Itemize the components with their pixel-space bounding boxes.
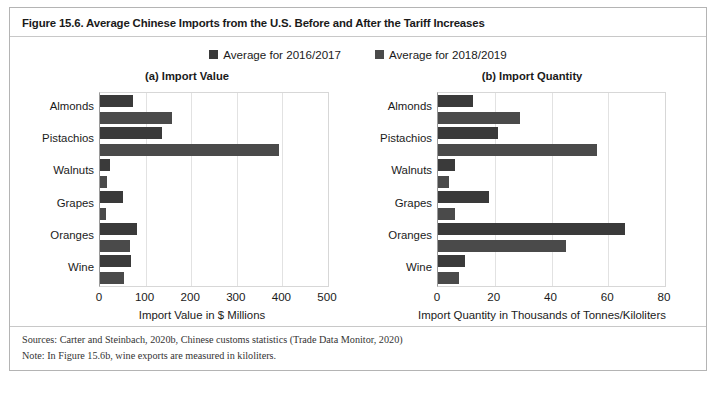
x-tick-label-80: 80	[658, 290, 671, 303]
legend-label-0: Average for 2016/2017	[223, 48, 341, 61]
gridline-60	[608, 93, 609, 286]
gridline-500	[328, 93, 329, 286]
bar-walnuts-2016-2017	[100, 159, 110, 171]
chart-panel-a: (a) Import Value 0100200300400500 Import…	[14, 70, 360, 340]
figure-sources: Sources: Carter and Steinbach, 2020b, Ch…	[22, 334, 403, 345]
category-label-pistachios: Pistachios	[360, 132, 432, 144]
bar-wine-2018-2019	[438, 272, 459, 284]
x-tick-label-400: 400	[272, 290, 291, 303]
panel-a-plot-area	[99, 92, 329, 287]
figure-note: Note: In Figure 15.6b, wine exports are …	[22, 350, 276, 361]
bar-walnuts-2018-2019	[100, 176, 107, 188]
category-label-walnuts: Walnuts	[360, 164, 432, 176]
bar-walnuts-2018-2019	[438, 176, 449, 188]
x-tick-label-300: 300	[226, 290, 245, 303]
panel-b-x-axis-label: Import Quantity in Thousands of Tonnes/K…	[360, 309, 704, 321]
legend-swatch-icon-1	[375, 50, 384, 59]
category-label-almonds: Almonds	[360, 100, 432, 112]
title-divider	[10, 36, 706, 37]
bar-almonds-2018-2019	[100, 112, 172, 124]
bar-pistachios-2016-2017	[100, 127, 162, 139]
bar-pistachios-2018-2019	[100, 144, 279, 156]
bar-wine-2016-2017	[100, 255, 131, 267]
figure-title: Figure 15.6. Average Chinese Imports fro…	[22, 17, 485, 29]
gridline-80	[665, 93, 666, 286]
bar-grapes-2018-2019	[100, 208, 106, 220]
panel-b-title: (b) Import Quantity	[360, 70, 704, 82]
chart-legend: Average for 2016/2017Average for 2018/20…	[10, 48, 706, 61]
category-label-walnuts: Walnuts	[14, 164, 94, 176]
bar-pistachios-2016-2017	[438, 127, 498, 139]
category-label-wine: Wine	[14, 261, 94, 273]
footnote-divider	[10, 326, 706, 327]
chart-panel-b: (b) Import Quantity 020406080 Import Qua…	[360, 70, 704, 340]
category-label-oranges: Oranges	[360, 229, 432, 241]
category-label-oranges: Oranges	[14, 229, 94, 241]
panel-a-title: (a) Import Value	[14, 70, 360, 82]
bar-almonds-2016-2017	[438, 95, 473, 107]
bar-oranges-2016-2017	[100, 223, 137, 235]
panel-b-x-axis-ticks: 020406080	[360, 290, 704, 306]
x-tick-label-200: 200	[181, 290, 200, 303]
bar-oranges-2016-2017	[438, 223, 625, 235]
legend-label-1: Average for 2018/2019	[389, 48, 507, 61]
category-label-wine: Wine	[360, 261, 432, 273]
bar-wine-2018-2019	[100, 272, 124, 284]
category-label-grapes: Grapes	[360, 197, 432, 209]
panel-b-plot-area	[437, 92, 666, 287]
x-tick-label-40: 40	[544, 290, 557, 303]
bar-wine-2016-2017	[438, 255, 465, 267]
x-tick-label-100: 100	[135, 290, 154, 303]
legend-item-1: Average for 2018/2019	[375, 48, 507, 61]
gridline-400	[282, 93, 283, 286]
legend-item-0: Average for 2016/2017	[209, 48, 341, 61]
bar-almonds-2018-2019	[438, 112, 520, 124]
x-tick-label-500: 500	[317, 290, 336, 303]
gridline-40	[552, 93, 553, 286]
x-tick-label-0: 0	[96, 290, 102, 303]
panel-a-x-axis-ticks: 0100200300400500	[14, 290, 360, 306]
figure-container: Figure 15.6. Average Chinese Imports fro…	[9, 7, 707, 371]
x-tick-label-60: 60	[601, 290, 614, 303]
bar-grapes-2018-2019	[438, 208, 455, 220]
bar-pistachios-2018-2019	[438, 144, 597, 156]
x-tick-label-0: 0	[434, 290, 440, 303]
bar-grapes-2016-2017	[438, 191, 489, 203]
legend-swatch-icon-0	[209, 50, 218, 59]
gridline-200	[191, 93, 192, 286]
category-label-pistachios: Pistachios	[14, 132, 94, 144]
category-label-grapes: Grapes	[14, 197, 94, 209]
bar-almonds-2016-2017	[100, 95, 133, 107]
x-tick-label-20: 20	[487, 290, 500, 303]
panel-a-x-axis-label: Import Value in $ Millions	[14, 309, 360, 321]
category-label-almonds: Almonds	[14, 100, 94, 112]
gridline-300	[237, 93, 238, 286]
bar-oranges-2018-2019	[438, 240, 566, 252]
bar-oranges-2018-2019	[100, 240, 130, 252]
bar-walnuts-2016-2017	[438, 159, 455, 171]
bar-grapes-2016-2017	[100, 191, 123, 203]
